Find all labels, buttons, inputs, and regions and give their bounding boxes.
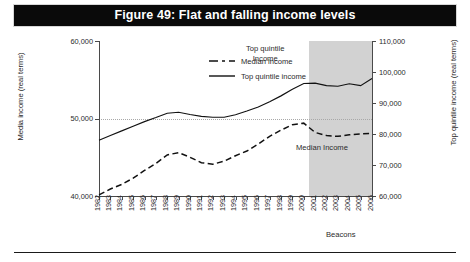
x-tick-label: 1982 xyxy=(93,195,102,211)
line-top-quintile-income xyxy=(99,79,372,141)
x-tick-label: 2006 xyxy=(366,195,375,211)
y-tick-label-right: 80,000 xyxy=(379,130,402,139)
annotation-top-quintile-line2: Income xyxy=(246,54,284,64)
x-tick-label: 1995 xyxy=(240,195,249,211)
figure-title-bar: Figure 49: Flat and falling income level… xyxy=(14,5,456,26)
axis-title-right: Top quintile income (real terms) xyxy=(449,28,458,158)
y-tick-right xyxy=(372,72,376,73)
y-tick-label-right: 90,000 xyxy=(379,99,402,108)
x-tick-label: 2000 xyxy=(297,195,306,211)
y-tick-right xyxy=(372,134,376,135)
figure-title: Figure 49: Flat and falling income level… xyxy=(14,5,456,26)
y-tick-label-right: 100,000 xyxy=(379,68,406,77)
x-tick-label: 1987 xyxy=(149,195,158,211)
y-tick-label-left: 40,000 xyxy=(57,192,93,201)
x-tick-label: 1992 xyxy=(206,195,215,211)
x-tick-label: 2005 xyxy=(354,195,363,211)
x-tick-label: 1989 xyxy=(172,195,181,211)
x-tick-label: 1993 xyxy=(218,195,227,211)
x-tick-label: 1998 xyxy=(275,195,284,211)
x-tick-label: 1996 xyxy=(252,195,261,211)
y-tick-label-left: 60,000 xyxy=(57,37,93,46)
annotation-median-income: Median Income xyxy=(296,143,348,153)
bottom-rule xyxy=(14,252,456,253)
x-tick-label: 1999 xyxy=(286,195,295,211)
y-tick-right xyxy=(372,41,376,42)
x-tick-label: 1984 xyxy=(115,195,124,211)
y-tick-label-left: 50,000 xyxy=(57,114,93,123)
x-tick-label: 1994 xyxy=(229,195,238,211)
x-tick-label: 1991 xyxy=(195,195,204,211)
annotation-top-quintile-income: Top quintile Income xyxy=(246,44,284,63)
x-tick-label: 2002 xyxy=(320,195,329,211)
y-tick-right xyxy=(372,165,376,166)
plot-area: Median income Top quintile income xyxy=(99,41,372,196)
axis-title-left: Media income (real terms) xyxy=(16,37,25,157)
y-tick-label-right: 60,000 xyxy=(379,192,402,201)
axis-right xyxy=(372,41,373,196)
x-tick-label: 1986 xyxy=(138,195,147,211)
annotation-top-quintile-line1: Top quintile xyxy=(246,44,284,54)
line-median-income xyxy=(99,123,372,195)
legend-item-top-quintile-income: Top quintile income xyxy=(209,70,306,82)
x-tick-label: 1983 xyxy=(104,195,113,211)
legend-key-solid-icon xyxy=(209,71,235,81)
y-tick-left xyxy=(95,119,99,120)
y-tick-label-right: 70,000 xyxy=(379,161,402,170)
band-label-beacons: Beacons xyxy=(309,230,372,239)
x-tick-label: 1997 xyxy=(263,195,272,211)
legend-key-dashed-icon xyxy=(209,56,235,66)
y-tick-label-right: 110,000 xyxy=(379,37,405,46)
x-tick-label: 1990 xyxy=(184,195,193,211)
x-tick-label: 2004 xyxy=(343,195,352,211)
x-tick-label: 2003 xyxy=(331,195,340,211)
x-tick-label: 2001 xyxy=(309,195,318,211)
figure-root: Figure 49: Flat and falling income level… xyxy=(0,0,470,262)
y-tick-right xyxy=(372,103,376,104)
y-tick-left xyxy=(95,41,99,42)
x-tick-label: 1988 xyxy=(161,195,170,211)
legend-label-top-quintile-income: Top quintile income xyxy=(241,72,306,81)
x-tick-label: 1985 xyxy=(127,195,136,211)
chart-area: Median income Top quintile income Top qu… xyxy=(0,30,470,252)
